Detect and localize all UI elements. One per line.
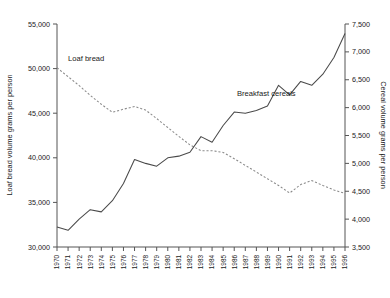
x-tick-label: 1988 xyxy=(253,255,260,270)
x-tick-label: 1992 xyxy=(297,255,304,270)
right-tick-label: 6,000 xyxy=(352,103,370,112)
left-axis-group: 30,00035,00040,00045,00050,00055,000 Loa… xyxy=(5,20,57,252)
right-tick-label: 3,500 xyxy=(352,243,370,252)
x-tick-label: 1973 xyxy=(87,255,94,270)
x-tick-label: 1970 xyxy=(53,255,60,270)
right-tick-label: 4,500 xyxy=(352,187,370,196)
right-tick-label: 7,500 xyxy=(352,20,370,29)
x-tick-label: 1984 xyxy=(208,255,215,270)
x-tick-label: 1977 xyxy=(131,255,138,270)
x-axis-group: 1970197119721973197419751976197719781979… xyxy=(53,247,348,269)
x-axis-tick-labels: 1970197119721973197419751976197719781979… xyxy=(53,255,348,270)
x-tick-label: 1995 xyxy=(330,255,337,270)
x-tick-label: 1994 xyxy=(319,255,326,270)
x-tick-label: 1990 xyxy=(275,255,282,270)
x-tick-label: 1971 xyxy=(64,255,71,270)
right-tick-label: 4,000 xyxy=(352,215,370,224)
series-annotation-breakfast-cereals: Breakfast cereals xyxy=(237,89,296,98)
x-tick-label: 1980 xyxy=(164,255,171,270)
right-tick-label: 7,000 xyxy=(352,47,370,56)
left-tick-label: 55,000 xyxy=(28,20,50,29)
x-tick-label: 1991 xyxy=(286,255,293,270)
x-tick-label: 1987 xyxy=(242,255,249,270)
left-tick-label: 30,000 xyxy=(28,243,50,252)
series-line-loaf-bread xyxy=(57,68,345,194)
right-tick-label: 6,500 xyxy=(352,75,370,84)
x-tick-label: 1976 xyxy=(120,255,127,270)
left-tick-label: 40,000 xyxy=(28,153,50,162)
x-tick-label: 1979 xyxy=(153,255,160,270)
right-tick-label: 5,500 xyxy=(352,131,370,140)
x-tick-label: 1981 xyxy=(175,255,182,270)
left-tick-label: 35,000 xyxy=(28,198,50,207)
left-axis-ticks: 30,00035,00040,00045,00050,00055,000 xyxy=(28,20,57,252)
x-axis-ticks xyxy=(57,247,345,251)
x-tick-label: 1975 xyxy=(109,255,116,270)
chart-container: 30,00035,00040,00045,00050,00055,000 Loa… xyxy=(0,0,390,298)
x-tick-label: 1996 xyxy=(341,255,348,270)
x-tick-label: 1983 xyxy=(197,255,204,270)
x-tick-label: 1989 xyxy=(264,255,271,270)
x-tick-label: 1974 xyxy=(98,255,105,270)
x-tick-label: 1982 xyxy=(186,255,193,270)
x-tick-label: 1978 xyxy=(142,255,149,270)
series-line-breakfast-cereals xyxy=(57,33,345,230)
x-tick-label: 1972 xyxy=(76,255,83,270)
right-axis-title: Cereal volume grams per person xyxy=(379,81,388,189)
left-axis-title: Loaf bread volume grams per person xyxy=(5,74,14,195)
right-axis-ticks: 3,5004,0004,5005,0005,5006,0006,5007,000… xyxy=(345,20,370,252)
left-tick-label: 50,000 xyxy=(28,64,50,73)
right-tick-label: 5,000 xyxy=(352,159,370,168)
series-annotation-loaf-bread: Loaf bread xyxy=(68,54,104,63)
x-tick-label: 1986 xyxy=(231,255,238,270)
right-axis-group: 3,5004,0004,5005,0005,5006,0006,5007,000… xyxy=(345,20,388,252)
x-tick-label: 1985 xyxy=(220,255,227,270)
x-tick-label: 1993 xyxy=(308,255,315,270)
left-tick-label: 45,000 xyxy=(28,109,50,118)
dual-axis-line-chart: 30,00035,00040,00045,00050,00055,000 Loa… xyxy=(0,0,390,298)
